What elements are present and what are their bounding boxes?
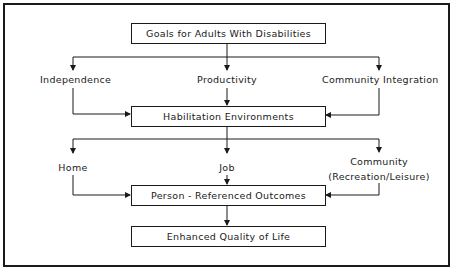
enhanced-quality-of-life-box: Enhanced Quality of Life: [131, 226, 326, 247]
community-integration-label: Community Integration: [322, 73, 436, 87]
goals-box: Goals for Adults With Disabilities: [131, 23, 326, 44]
productivity-label: Productivity: [187, 73, 267, 87]
job-label: Job: [207, 161, 247, 175]
community-label: Community: [334, 155, 424, 169]
person-referenced-outcomes-box: Person - Referenced Outcomes: [131, 185, 326, 206]
independence-label: Independence: [40, 73, 110, 87]
habilitation-environments-box: Habilitation Environments: [131, 106, 326, 127]
recreation-leisure-label: (Recreation/Leisure): [322, 170, 436, 184]
home-label: Home: [53, 161, 93, 175]
